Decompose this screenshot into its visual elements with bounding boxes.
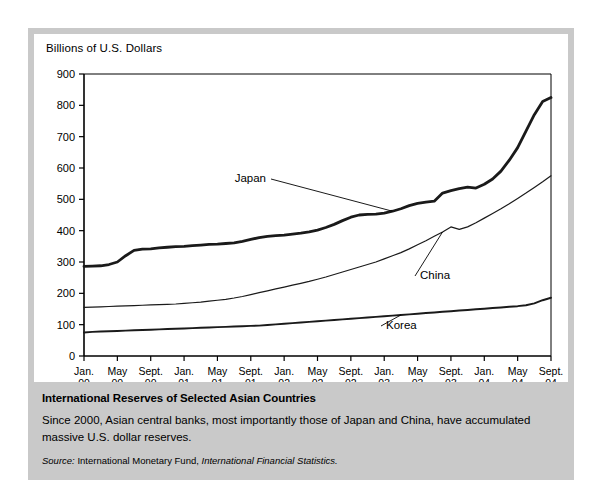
- series-line-china: [84, 176, 551, 308]
- x-tick-label-month: Sept.: [239, 365, 264, 377]
- leader-line-japan: [271, 179, 393, 211]
- y-tick-label: 400: [57, 225, 75, 237]
- x-tick-label-month: May: [508, 365, 529, 377]
- plot-area: 0100200300400500600700800900Jan.00May00S…: [34, 34, 568, 382]
- y-tick-label: 100: [57, 319, 75, 331]
- y-tick-label: 600: [57, 162, 75, 174]
- caption-body: Since 2000, Asian central banks, most im…: [42, 412, 560, 445]
- caption-area: International Reserves of Selected Asian…: [34, 382, 568, 472]
- y-tick-label: 300: [57, 256, 75, 268]
- x-tick-label-month: Jan.: [174, 365, 194, 377]
- x-tick-label-month: Jan.: [74, 365, 94, 377]
- y-tick-label: 500: [57, 193, 75, 205]
- x-tick-label-month: Jan.: [274, 365, 294, 377]
- series-line-japan: [84, 98, 551, 267]
- y-tick-label: 0: [69, 350, 75, 362]
- caption-source: Source: International Monetary Fund, Int…: [42, 455, 560, 466]
- y-tick-label: 900: [57, 68, 75, 80]
- y-tick-label: 800: [57, 99, 75, 111]
- x-tick-label-month: Jan.: [474, 365, 494, 377]
- source-publication: International Financial Statistics.: [202, 455, 338, 466]
- series-label-japan: Japan: [235, 172, 266, 184]
- x-tick-label-month: Sept.: [539, 365, 564, 377]
- figure-container: Billions of U.S. Dollars 010020030040050…: [28, 28, 574, 480]
- x-tick-label-month: May: [308, 365, 329, 377]
- x-tick-label-month: May: [107, 365, 128, 377]
- y-tick-label: 700: [57, 131, 75, 143]
- x-tick-label-month: Sept.: [339, 365, 364, 377]
- chart-panel: Billions of U.S. Dollars 010020030040050…: [34, 34, 568, 382]
- source-label: Source:: [42, 455, 75, 466]
- caption-title: International Reserves of Selected Asian…: [42, 392, 560, 404]
- x-tick-label-month: Jan.: [374, 365, 394, 377]
- series-label-korea: Korea: [386, 319, 417, 331]
- x-tick-label-month: Sept.: [439, 365, 464, 377]
- series-label-china: China: [420, 269, 451, 281]
- series-line-korea: [84, 298, 551, 333]
- x-tick-label-month: May: [208, 365, 229, 377]
- source-text: International Monetary Fund,: [77, 455, 198, 466]
- x-tick-label-month: May: [408, 365, 429, 377]
- y-tick-label: 200: [57, 287, 75, 299]
- x-tick-label-month: Sept.: [138, 365, 163, 377]
- line-chart-svg: 0100200300400500600700800900Jan.00May00S…: [34, 34, 568, 382]
